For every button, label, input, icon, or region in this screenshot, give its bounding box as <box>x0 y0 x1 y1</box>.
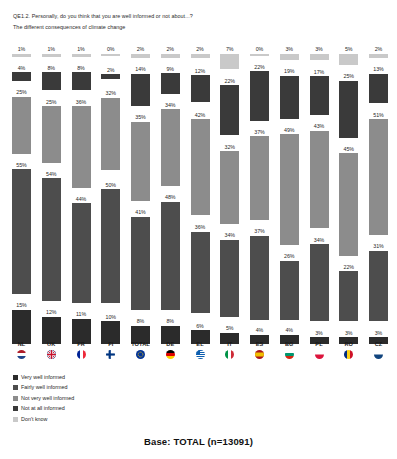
bar-not-at-all-informed <box>161 73 180 93</box>
flag-icon-de <box>166 350 175 359</box>
bar-don-t-know <box>191 54 210 59</box>
bar-value-label: 8% <box>72 65 91 72</box>
bar-not-at-all-informed <box>250 71 269 121</box>
bar-segment: 42% <box>191 119 210 214</box>
bar-gap <box>12 81 31 89</box>
bar-segment: 1% <box>72 54 91 57</box>
bar-don-t-know <box>161 54 180 59</box>
axis-label-fr: FR <box>69 340 94 348</box>
bar-fairly-well-informed <box>339 271 358 321</box>
bar-very-well-informed <box>12 310 31 344</box>
bar-value-label: 34% <box>220 232 239 239</box>
bar-don-t-know <box>280 54 299 61</box>
bar-not-at-all-informed <box>339 81 358 138</box>
bar-gap <box>220 317 239 325</box>
bar-not-very-well-informed <box>161 109 180 186</box>
country-column-total: 2%14%35%41%8% <box>128 44 153 344</box>
axis-cell-it: IT <box>217 340 242 368</box>
bar-don-t-know <box>72 54 91 57</box>
bar-gap <box>191 215 210 224</box>
bar-gap <box>161 186 180 194</box>
axis-label-bg: BG <box>277 340 302 348</box>
flag-icon-uk <box>47 350 56 359</box>
axis-label-pl: PL <box>307 340 332 348</box>
bar-gap <box>310 115 329 123</box>
bar-don-t-know <box>339 54 358 65</box>
flag-icon-cz <box>374 350 383 359</box>
bar-fairly-well-informed <box>220 240 239 317</box>
bar-value-label: 13% <box>369 66 388 73</box>
bar-fairly-well-informed <box>12 169 31 294</box>
bar-gap <box>72 57 91 65</box>
legend-label: Don't know <box>21 416 48 423</box>
bar-segment: 50% <box>101 189 120 303</box>
bar-fairly-well-informed <box>280 261 299 320</box>
bar-gap <box>101 56 120 67</box>
bar-segment: 8% <box>42 72 61 90</box>
bar-gap <box>191 58 210 67</box>
bar-segment: 4% <box>12 72 31 81</box>
bar-value-label: 32% <box>101 90 120 97</box>
bar-fairly-well-informed <box>72 203 91 303</box>
flag-icon-es <box>255 350 264 359</box>
country-column-it: 7%22%32%34%5% <box>217 44 242 344</box>
bar-gap <box>72 303 91 311</box>
bar-not-at-all-informed <box>191 75 210 102</box>
bar-gap <box>339 321 358 329</box>
axis-cell-pl: PL <box>307 340 332 368</box>
flag-icon-pl <box>315 350 324 359</box>
bar-gap <box>101 79 120 90</box>
bar-value-label: 2% <box>161 46 180 53</box>
bar-value-label: 1% <box>72 46 91 53</box>
bar-value-label: 2% <box>369 46 388 53</box>
bar-value-label: 48% <box>161 194 180 201</box>
axis-cell-total: TOTAL <box>128 340 153 368</box>
flag-icon-total <box>136 350 145 359</box>
bar-segment: 2% <box>101 74 120 79</box>
bar-value-label: 43% <box>310 123 329 130</box>
bar-segment: 43% <box>310 131 329 229</box>
bar-value-label: 3% <box>280 46 299 53</box>
axis-cell-de: DE <box>158 340 183 368</box>
axis-label-ro: RO <box>336 340 361 348</box>
bar-value-label: 0% <box>250 46 269 53</box>
bar-segment: 35% <box>131 122 150 201</box>
bar-value-label: 31% <box>369 243 388 250</box>
base-note: Base: TOTAL (n=13091) <box>0 436 397 447</box>
bar-don-t-know <box>12 54 31 57</box>
bar-not-very-well-informed <box>339 153 358 255</box>
bar-not-very-well-informed <box>280 134 299 245</box>
axis-cell-es: ES <box>247 340 272 368</box>
bar-gap <box>161 310 180 318</box>
bar-fairly-well-informed <box>131 217 150 310</box>
legend-swatch-icon <box>13 385 18 390</box>
bar-value-label: 8% <box>42 65 61 72</box>
bar-gap <box>250 56 269 64</box>
bar-not-at-all-informed <box>72 72 91 90</box>
axis-label-nl: NL <box>9 340 34 348</box>
bar-segment: 2% <box>191 54 210 59</box>
legend-item: Very well informed <box>13 372 173 383</box>
bar-not-at-all-informed <box>369 74 388 104</box>
bar-value-label: 44% <box>72 196 91 203</box>
bar-segment: 13% <box>369 74 388 104</box>
bar-gap <box>250 220 269 228</box>
bar-gap <box>12 57 31 65</box>
bar-gap <box>310 321 329 329</box>
bar-value-label: 50% <box>101 182 120 189</box>
flag-icon-ro <box>344 350 353 359</box>
bar-segment: 32% <box>101 98 120 171</box>
bar-gap <box>161 58 180 66</box>
bar-not-at-all-informed <box>131 74 150 106</box>
bar-value-label: 36% <box>72 99 91 106</box>
bar-segment: 54% <box>42 178 61 301</box>
axis-label-it: IT <box>217 340 242 348</box>
legend-swatch-icon <box>13 417 18 422</box>
axis-label-fi: FI <box>98 340 123 348</box>
bar-segment: 41% <box>131 217 150 310</box>
bar-value-label: 25% <box>42 99 61 106</box>
bar-segment: 3% <box>280 54 299 61</box>
bar-gap <box>191 313 210 322</box>
bar-segment: 15% <box>12 310 31 344</box>
bar-don-t-know <box>220 54 239 70</box>
